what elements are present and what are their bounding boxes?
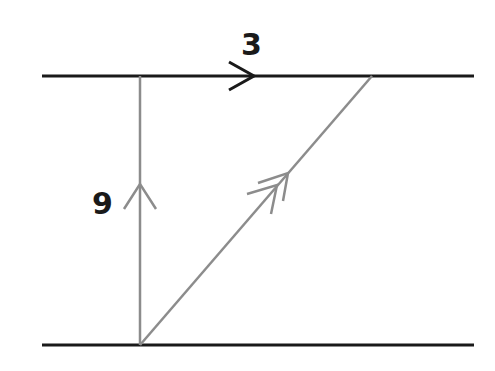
left-vector-label: 9 [92,186,113,221]
resultant-vector-line [140,76,372,345]
top-vector-label: 3 [241,27,262,62]
vector-diagram: 3 9 [0,0,495,371]
